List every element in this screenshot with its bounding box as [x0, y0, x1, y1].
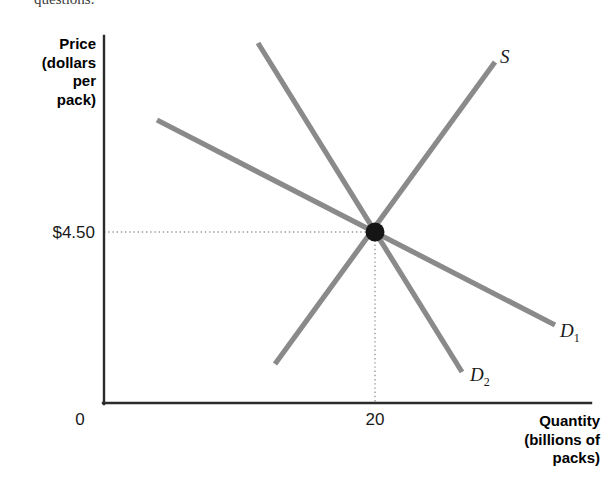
- y-axis-tick-label-price: $4.50: [0, 223, 95, 243]
- demand-curve-1-label: D1: [560, 320, 580, 346]
- demand-curve-1: [157, 120, 555, 325]
- y-axis-title: Price (dollars per pack): [0, 35, 96, 109]
- x-axis-tick-label-quantity: 20: [355, 410, 395, 430]
- demand-curve-2-label-subscript: 2: [484, 375, 490, 389]
- supply-curve: [275, 62, 495, 364]
- demand-curve-2-label-text: D: [470, 364, 484, 385]
- origin-label: 0: [60, 410, 100, 430]
- demand-curve-1-label-subscript: 1: [574, 331, 580, 345]
- x-axis-title: Quantity (billions of packs): [440, 412, 600, 468]
- supply-curve-label: S: [500, 46, 510, 68]
- demand-curve-2: [258, 43, 462, 372]
- demand-curve-2-label: D2: [470, 364, 490, 390]
- demand-curve-1-label-text: D: [560, 320, 574, 341]
- equilibrium-point: [366, 223, 385, 242]
- supply-demand-figure: questions. Price (dollars per pack) Quan…: [0, 0, 614, 499]
